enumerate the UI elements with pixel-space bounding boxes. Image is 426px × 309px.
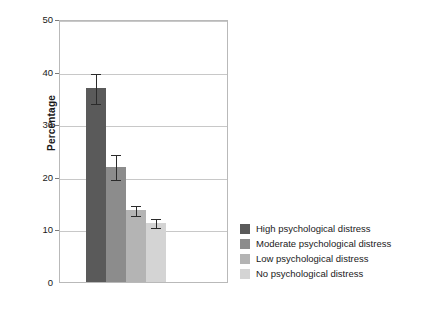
legend-item: Moderate psychological distress [240,236,422,251]
y-axis-tick-label: 10 [27,225,53,235]
legend-swatch-icon [240,269,250,279]
error-bar [131,206,141,217]
error-bar [111,155,121,181]
legend-item: No psychological distress [240,266,422,281]
y-axis-tick-label: 30 [27,120,53,130]
error-bar-cap-bottom [131,216,141,217]
error-bar [151,219,161,228]
gridline [60,74,227,75]
error-bar-cap-bottom [91,104,101,105]
y-axis-tick-label: 20 [27,173,53,183]
bar [86,88,106,282]
error-bar [91,74,101,106]
bar [146,223,166,282]
error-bar-stem [96,74,97,106]
legend-swatch-icon [240,224,250,234]
error-bar-cap-top [131,206,141,207]
legend-item-label: No psychological distress [256,269,363,279]
legend-item: High psychological distress [240,221,422,236]
legend-swatch-icon [240,254,250,264]
bar [106,167,126,282]
gridline [60,21,227,22]
y-axis-tick-label: 40 [27,68,53,78]
error-bar-cap-top [91,74,101,75]
legend: High psychological distressModerate psyc… [240,221,422,281]
error-bar-cap-bottom [151,228,161,229]
error-bar-stem [116,155,117,181]
legend-item-label: High psychological distress [256,224,371,234]
error-bar-cap-bottom [111,180,121,181]
y-axis-tick-label: 0 [27,278,53,288]
error-bar-cap-top [151,219,161,220]
legend-swatch-icon [240,239,250,249]
bar [126,210,146,282]
y-axis-tick-label: 50 [27,15,53,25]
legend-item: Low psychological distress [240,251,422,266]
legend-item-label: Moderate psychological distress [256,239,391,249]
bar-chart-figure: Percentage 01020304050 High psychologica… [0,0,426,309]
legend-item-label: Low psychological distress [256,254,368,264]
plot-area [59,20,228,283]
error-bar-cap-top [111,155,121,156]
